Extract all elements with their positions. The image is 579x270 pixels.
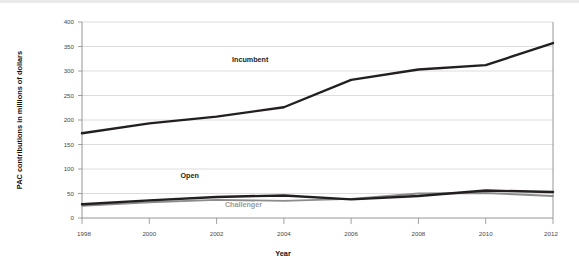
y-tick-label-400: 400 xyxy=(64,18,75,25)
x-tick-label-2010: 2010 xyxy=(479,230,493,237)
y-tick-label-200: 200 xyxy=(64,116,75,123)
line-chart: 400 350 300 250 200 150 100 50 0 1998 20… xyxy=(0,0,579,270)
y-tick-marks xyxy=(78,22,82,218)
series-label-open: Open xyxy=(180,171,198,180)
x-tick-label-2002: 2002 xyxy=(210,230,224,237)
x-tick-label-2000: 2000 xyxy=(142,230,156,237)
y-tick-labels: 400 350 300 250 200 150 100 50 0 xyxy=(64,18,75,221)
x-tick-labels: 1998 2000 2002 2004 2006 2008 2010 2012 xyxy=(77,230,558,237)
y-tick-label-50: 50 xyxy=(67,190,74,197)
chart-figure: 400 350 300 250 200 150 100 50 0 1998 20… xyxy=(0,0,579,270)
x-axis-title: Year xyxy=(275,249,291,258)
x-tick-label-2006: 2006 xyxy=(344,230,358,237)
y-tick-label-100: 100 xyxy=(64,165,75,172)
x-tick-label-2008: 2008 xyxy=(412,230,426,237)
y-tick-label-250: 250 xyxy=(64,92,75,99)
x-tick-label-2004: 2004 xyxy=(277,230,291,237)
y-tick-label-350: 350 xyxy=(64,43,75,50)
y-tick-label-0: 0 xyxy=(71,214,75,221)
y-axis-title: PAC contributions in millions of dollars xyxy=(15,51,24,189)
x-tick-label-2012: 2012 xyxy=(544,230,558,237)
x-tick-marks xyxy=(82,218,553,224)
y-tick-label-150: 150 xyxy=(64,141,75,148)
series-label-incumbent: Incumbent xyxy=(232,55,269,64)
x-tick-label-1998: 1998 xyxy=(77,230,91,237)
top-edge-band xyxy=(0,0,579,3)
series-label-challenger: Challenger xyxy=(225,200,262,209)
y-tick-label-300: 300 xyxy=(64,67,75,74)
